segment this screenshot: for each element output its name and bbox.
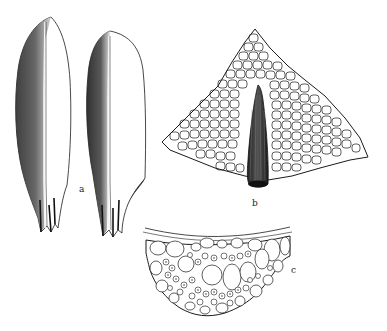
botanical-plate (0, 0, 387, 331)
panel-label-c: c (291, 266, 296, 275)
cell-network (162, 29, 368, 188)
panel-label-a: a (79, 185, 84, 194)
leaf-left (16, 17, 71, 232)
panel-label-b: b (252, 199, 258, 208)
cross-section (143, 227, 292, 316)
leaf-right (87, 31, 146, 237)
